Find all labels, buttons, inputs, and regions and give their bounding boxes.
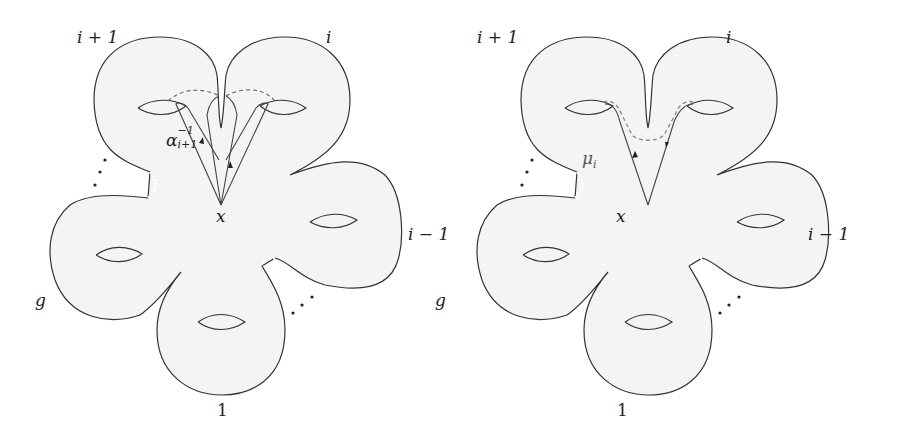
loop-superscript: −1 bbox=[177, 124, 193, 137]
loop-subscript: i bbox=[593, 158, 597, 171]
handle-label-top-right: i bbox=[726, 27, 731, 47]
basepoint-label: x bbox=[216, 206, 226, 226]
loop-subscript: i+1 bbox=[177, 138, 197, 151]
handle-label-top-right: i bbox=[326, 27, 331, 47]
handle-label-top-left: i + 1 bbox=[77, 27, 118, 47]
loop-label-mu: μi bbox=[582, 148, 597, 168]
handle-label-left: g bbox=[35, 290, 46, 310]
surface-diagram-right bbox=[427, 0, 882, 435]
figure-right: i + 1 i i − 1 g 1 x μi bbox=[427, 0, 882, 435]
surface-diagram-left bbox=[0, 0, 455, 435]
loop-label-alpha: α−1i+1 bbox=[166, 130, 201, 150]
loop-symbol: α bbox=[166, 130, 177, 150]
figure-left: i + 1 i i − 1 g 1 x α−1i+1 bbox=[0, 0, 455, 435]
handle-label-bottom: 1 bbox=[617, 400, 628, 420]
handle-label-bottom: 1 bbox=[217, 400, 228, 420]
basepoint-label: x bbox=[616, 206, 626, 226]
handle-label-right: i − 1 bbox=[808, 224, 849, 244]
handle-label-left: g bbox=[435, 290, 446, 310]
loop-symbol: μ bbox=[582, 148, 593, 168]
handle-label-top-left: i + 1 bbox=[477, 27, 518, 47]
